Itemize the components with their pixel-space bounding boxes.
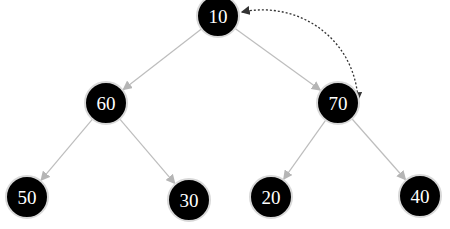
node-label: 40 <box>411 186 430 207</box>
edge-10-70 <box>233 27 320 90</box>
tree-node-10: 10 <box>197 0 239 37</box>
tree-node-70: 70 <box>317 82 359 124</box>
tree-nodes: 10607050302040 <box>6 0 441 221</box>
tree-node-20: 20 <box>250 176 292 218</box>
tree-diagram: 10607050302040 <box>0 0 450 229</box>
edge-60-50 <box>41 118 94 181</box>
edge-60-30 <box>118 117 174 183</box>
node-label: 50 <box>18 187 37 208</box>
tree-node-50: 50 <box>6 176 48 218</box>
tree-node-60: 60 <box>85 82 127 124</box>
node-label: 60 <box>97 93 116 114</box>
node-label: 20 <box>262 187 281 208</box>
edge-10-60 <box>123 28 203 90</box>
node-label: 30 <box>180 190 199 211</box>
edge-70-40 <box>351 117 406 179</box>
edge-70-20 <box>284 118 327 179</box>
tree-node-40: 40 <box>399 175 441 217</box>
node-label: 70 <box>329 93 348 114</box>
node-label: 10 <box>209 6 228 27</box>
tree-canvas: 10607050302040 <box>0 0 450 229</box>
tree-node-30: 30 <box>168 179 210 221</box>
